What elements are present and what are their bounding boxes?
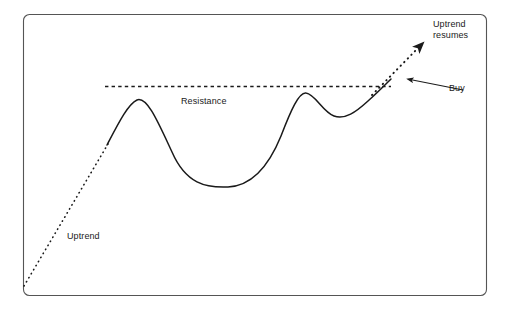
resistance-label: Resistance xyxy=(181,96,227,106)
diagram-canvas xyxy=(0,0,509,309)
uptrend-resumes-line-2: resumes xyxy=(433,30,468,41)
buy-label: Buy xyxy=(449,83,465,93)
uptrend-resumes-line-1: Uptrend xyxy=(433,19,468,30)
uptrend-resumes-label: Uptrend resumes xyxy=(433,19,468,41)
uptrend-label: Uptrend xyxy=(67,231,100,241)
figure-root: Resistance Uptrend Uptrend resumes Buy xyxy=(0,0,509,309)
diagram-border xyxy=(24,15,487,296)
